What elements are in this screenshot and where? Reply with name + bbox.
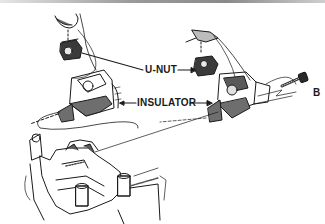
- right-insulator: [208, 72, 270, 122]
- insulator-label: INSULATOR: [137, 98, 196, 108]
- bolt-b-label: B: [313, 88, 320, 98]
- left-insulator: [58, 70, 121, 122]
- left-u-nut: [60, 39, 82, 60]
- diagram-canvas: U-NUT INSULATOR B: [0, 0, 325, 224]
- engine-block: [25, 134, 166, 224]
- bolt-b: [282, 72, 308, 86]
- u-nut-label: U-NUT: [145, 65, 177, 75]
- right-u-nut: [194, 56, 218, 76]
- engine-mount-illustration: [0, 0, 325, 224]
